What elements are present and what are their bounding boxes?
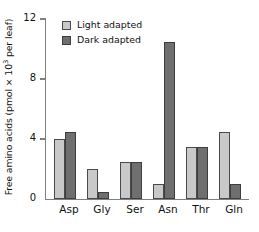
legend-item-light-adapted: Light adapted [62, 19, 142, 31]
plot-area [45, 19, 249, 199]
bar-group-gln [213, 19, 246, 199]
y-axis-ticks: 12 8 4 0 [0, 0, 45, 232]
legend-swatch-dark-icon [62, 36, 71, 45]
bar-group-gly [81, 19, 114, 199]
bar-gln-dark-adapted [230, 184, 241, 199]
x-axis-line [45, 199, 249, 200]
y-tick-label-0: 0 [12, 193, 36, 203]
x-label-gln: Gln [213, 203, 255, 216]
bar-group-asn [147, 19, 180, 199]
bar-thr-light-adapted [186, 147, 197, 200]
y-tick-label-12-wrap: 12 [10, 13, 36, 23]
bar-group-asp [48, 19, 81, 199]
y-tick-label-0-wrap: 0 [10, 193, 36, 203]
legend: Light adapted Dark adapted [62, 19, 142, 46]
bar-gly-light-adapted [87, 169, 98, 199]
bar-gln-light-adapted [219, 132, 230, 200]
bar-asp-light-adapted [54, 139, 65, 199]
bar-thr-dark-adapted [197, 147, 208, 200]
bar-chart: Free amino acids (pmol × 103 per leaf) 1… [0, 0, 259, 232]
bar-gly-dark-adapted [98, 192, 109, 200]
bar-asp-dark-adapted [65, 132, 76, 200]
y-tick-label-12: 12 [12, 13, 36, 23]
legend-label-light-adapted: Light adapted [77, 19, 142, 31]
bar-asn-light-adapted [153, 184, 164, 199]
bar-group-ser [114, 19, 147, 199]
y-tick-label-4: 4 [12, 133, 36, 143]
bar-asn-dark-adapted [164, 42, 175, 200]
bar-ser-light-adapted [120, 162, 131, 200]
y-tick-label-8: 8 [12, 73, 36, 83]
legend-label-dark-adapted: Dark adapted [77, 34, 141, 46]
bar-group-thr [180, 19, 213, 199]
y-tick-label-4-wrap: 4 [10, 133, 36, 143]
bar-ser-dark-adapted [131, 162, 142, 200]
legend-swatch-light-icon [62, 21, 71, 30]
y-tick-label-8-wrap: 8 [10, 73, 36, 83]
legend-item-dark-adapted: Dark adapted [62, 34, 142, 46]
